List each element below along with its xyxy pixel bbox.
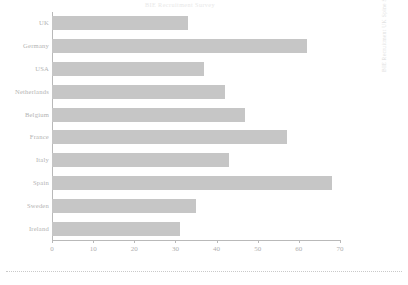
side-caption: BIE Recruitment UK Spine Summer 2003	[381, 0, 387, 72]
bar[interactable]	[52, 199, 196, 213]
bar-row: Ireland	[52, 217, 340, 240]
bar[interactable]	[52, 130, 287, 144]
x-axis-tick-label: 10	[90, 245, 97, 253]
chart-title: BIE Recruitment Survey	[0, 1, 360, 8]
x-axis-tick-label: 30	[172, 245, 179, 253]
bar[interactable]	[52, 176, 332, 190]
bar[interactable]	[52, 39, 307, 53]
category-label: Germany	[23, 39, 49, 53]
chart-page: BIE Recruitment Survey UKGermanyUSANethe…	[0, 0, 408, 285]
bar-row: UK	[52, 12, 340, 35]
bar[interactable]	[52, 108, 245, 122]
category-label: Italy	[36, 153, 49, 167]
x-axis-tick-label: 60	[295, 245, 302, 253]
bar-row: Germany	[52, 35, 340, 58]
x-axis-tick-label: 70	[337, 245, 344, 253]
bar-row: France	[52, 126, 340, 149]
category-label: Netherlands	[15, 85, 49, 99]
plot-area: UKGermanyUSANetherlandsBelgiumFranceItal…	[52, 12, 340, 240]
category-label: Spain	[33, 176, 49, 190]
bar-row: Sweden	[52, 194, 340, 217]
x-axis-tick	[175, 240, 176, 243]
x-axis-tick-label: 20	[131, 245, 138, 253]
x-axis-tick	[217, 240, 218, 243]
bottom-dotted-rule	[6, 271, 402, 272]
x-axis-tick-label: 50	[254, 245, 261, 253]
bar-row: USA	[52, 58, 340, 81]
category-label: UK	[39, 16, 49, 30]
x-axis-tick-label: 40	[213, 245, 220, 253]
bar-row: Belgium	[52, 103, 340, 126]
bar[interactable]	[52, 153, 229, 167]
bar-row: Italy	[52, 149, 340, 172]
bar[interactable]	[52, 222, 180, 236]
x-axis-line	[52, 240, 341, 241]
x-axis-tick	[52, 240, 53, 243]
category-label: USA	[35, 62, 49, 76]
bar-row: Spain	[52, 172, 340, 195]
x-axis-tick	[340, 240, 341, 243]
x-axis-tick	[134, 240, 135, 243]
x-axis-tick-label: 0	[50, 245, 54, 253]
category-label: Sweden	[27, 199, 49, 213]
category-label: France	[30, 130, 49, 144]
bar[interactable]	[52, 62, 204, 76]
x-axis-tick	[299, 240, 300, 243]
x-axis-tick	[93, 240, 94, 243]
category-label: Ireland	[29, 222, 49, 236]
bar[interactable]	[52, 85, 225, 99]
bar[interactable]	[52, 16, 188, 30]
x-axis-tick	[258, 240, 259, 243]
category-label: Belgium	[25, 108, 49, 122]
bar-row: Netherlands	[52, 80, 340, 103]
